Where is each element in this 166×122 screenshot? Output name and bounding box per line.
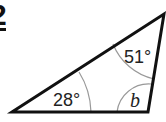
triangle-diagram: 28° 51° b xyxy=(0,0,166,122)
angle-label-28: 28° xyxy=(53,90,80,110)
angle-label-b: b xyxy=(130,89,140,111)
angle-arc-bottom-left xyxy=(79,72,91,112)
angle-label-51: 51° xyxy=(124,47,151,67)
